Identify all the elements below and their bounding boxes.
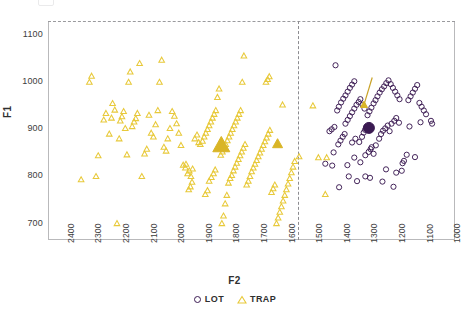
y-tick-label: 700 bbox=[27, 218, 43, 228]
y-tick-label: 800 bbox=[27, 170, 43, 180]
x-tick-label: 1900 bbox=[204, 223, 214, 243]
x-tick-label: 2000 bbox=[176, 223, 186, 243]
x-tick-label: 1200 bbox=[397, 223, 407, 243]
x-tick-label: 1400 bbox=[342, 223, 352, 243]
legend-item-lot[interactable]: LOT bbox=[193, 294, 224, 304]
x-tick-label: 2100 bbox=[149, 223, 159, 243]
y-tick-label: 1100 bbox=[23, 29, 43, 39]
plot-top-dashed-border bbox=[48, 21, 455, 22]
x-tick-label: 1000 bbox=[452, 223, 462, 243]
x-tick-label: 1100 bbox=[425, 224, 435, 243]
y-tick-label: 900 bbox=[27, 123, 43, 133]
x-tick-label: 1500 bbox=[314, 223, 324, 243]
scatter-plot-figure: F1 70080090010001100 2400230022002100200… bbox=[0, 0, 469, 316]
legend-item-trap[interactable]: TRAP bbox=[237, 294, 276, 304]
triangle-open-icon bbox=[237, 295, 247, 304]
x-tick-label: 1600 bbox=[287, 223, 297, 243]
x-tick-label: 2400 bbox=[66, 223, 76, 243]
clipped-artifact bbox=[38, 0, 54, 6]
circle-open-icon bbox=[193, 295, 202, 304]
x-tick-label: 1300 bbox=[369, 223, 379, 243]
legend-label-lot: LOT bbox=[205, 294, 224, 304]
y-axis-title: F1 bbox=[2, 106, 13, 118]
vertical-divider-line bbox=[298, 21, 299, 240]
legend: LOT TRAP bbox=[0, 294, 469, 304]
x-axis-title: F2 bbox=[0, 275, 469, 286]
legend-label-trap: TRAP bbox=[250, 294, 276, 304]
x-tick-label: 1800 bbox=[231, 223, 241, 243]
x-tick-label: 1700 bbox=[259, 223, 269, 243]
y-tick-label: 1000 bbox=[22, 76, 43, 86]
plot-area bbox=[48, 21, 455, 240]
x-tick-label: 2200 bbox=[121, 223, 131, 243]
x-tick-label: 2300 bbox=[93, 223, 103, 243]
